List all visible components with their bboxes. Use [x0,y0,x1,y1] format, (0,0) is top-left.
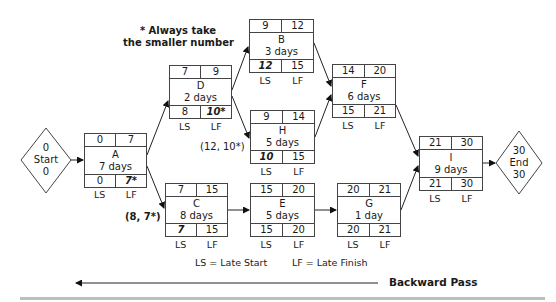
column-labels-i: LSLF [419,193,483,204]
late-finish: 21 [369,224,401,236]
activity-node-d: 79 D2 days 810* [169,65,232,119]
early-finish: 15 [196,184,227,196]
bottom-divider [20,297,545,300]
rule-note-line2: the smaller number [123,37,233,49]
early-finish: 20 [364,65,396,77]
activity-duration: 9 days [434,164,467,176]
activity-duration: 2 days [184,92,217,104]
late-finish: 15 [281,60,313,72]
column-labels-d: LSLF [169,121,232,132]
late-start: 15 [251,224,282,236]
lf-label: LF [451,193,483,204]
lf-label: LF [197,239,229,250]
ls-label: LS [249,75,282,86]
ls-label: LS [250,166,283,177]
activity-name: G [365,198,373,210]
legend-late-start: LS = Late Start [195,257,267,268]
activity-node-f: 1420 F6 days 1521 [332,64,396,118]
early-start: 9 [251,111,282,123]
end-late: 30 [499,169,539,181]
lf-label: LF [116,189,148,200]
activity-duration: 5 days [266,137,299,149]
late-finish: 10* [200,106,231,118]
activity-name: H [279,125,287,137]
network-diagram: 0 Start 0 30 End 30 * Always take the sm… [0,0,556,302]
activity-node-a: 07 A7 days 07* [84,133,147,188]
activity-name: F [361,79,367,91]
late-finish: 15 [282,151,314,163]
legend-late-finish: LF = Late Finish [292,257,368,268]
early-finish: 9 [200,66,231,78]
activity-duration: 6 days [347,91,380,103]
ls-label: LS [84,189,116,200]
rule-note: * Always take the smaller number [123,25,233,49]
early-start: 0 [85,134,115,146]
column-labels-b: LSLF [249,75,314,86]
lf-label: LF [282,75,315,86]
early-start: 9 [250,20,281,32]
early-start: 15 [251,184,282,196]
early-finish: 21 [369,184,401,196]
lf-label: LF [283,166,316,177]
late-start: 8 [170,106,200,118]
start-early: 0 [26,142,66,154]
late-start: 20 [338,224,369,236]
late-start: 21 [420,178,451,190]
activity-duration: 7 days [99,161,132,173]
backward-pass-label: Backward Pass [389,276,477,288]
late-finish: 21 [364,105,396,117]
early-start: 7 [170,66,200,78]
early-finish: 14 [282,111,314,123]
column-labels-e: LSLF [250,239,315,250]
activity-node-c: 715 C8 days 715 [165,183,228,237]
ls-label: LS [169,121,201,132]
early-start: 7 [166,184,196,196]
end-label: End [499,157,539,169]
activity-name: B [278,34,285,46]
lf-label: LF [364,120,396,131]
activity-name: D [197,80,205,92]
start-late: 0 [26,166,66,178]
lf-label: LF [369,239,401,250]
end-early: 30 [499,145,539,157]
late-finish: 20 [282,224,314,236]
lf-label: LF [283,239,316,250]
end-node: 30 End 30 [499,145,539,181]
h-choice-annotation: (12, 10*) [200,141,245,152]
column-labels-g: LSLF [337,239,401,250]
early-start: 20 [338,184,369,196]
column-labels-c: LSLF [165,239,228,250]
ls-label: LS [250,239,283,250]
activity-node-g: 2021 G1 day 2021 [337,183,401,237]
ls-label: LS [419,193,451,204]
column-labels-a: LSLF [84,189,147,200]
activity-duration: 3 days [265,46,298,58]
activity-name: A [112,149,119,161]
c-choice-annotation: (8, 7*) [125,211,161,222]
late-start: 15 [333,105,364,117]
early-finish: 12 [281,20,313,32]
column-labels-f: LSLF [332,120,396,131]
early-finish: 30 [451,137,483,149]
early-start: 14 [333,65,364,77]
late-finish: 30 [451,178,483,190]
ls-label: LS [332,120,364,131]
early-start: 21 [420,137,451,149]
ls-label: LS [337,239,369,250]
late-start: 7 [166,224,196,236]
activity-duration: 5 days [266,210,299,222]
activity-node-h: 914 H5 days 1015 [250,110,315,164]
start-node: 0 Start 0 [26,142,66,178]
activity-node-b: 912 B3 days 1215 [249,19,314,73]
lf-label: LF [201,121,233,132]
early-finish: 20 [282,184,314,196]
late-finish: 15 [196,224,227,236]
late-finish: 7* [115,175,146,187]
activity-node-i: 2130 I9 days 2130 [419,136,483,191]
rule-note-line1: * Always take [123,25,233,37]
activity-duration: 1 day [355,210,383,222]
early-finish: 7 [115,134,146,146]
column-labels-h: LSLF [250,166,315,177]
activity-node-e: 1520 E5 days 1520 [250,183,315,237]
activity-name: C [193,198,200,210]
